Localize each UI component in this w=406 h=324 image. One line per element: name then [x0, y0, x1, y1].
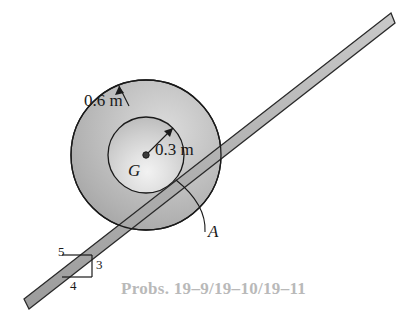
contact-point-label-a: A — [208, 223, 218, 240]
outer-radius-label: 0.6 m — [84, 92, 123, 109]
center-label-g: G — [128, 162, 140, 179]
figure-caption: Probs. 19–9/19–10/19–11 — [121, 279, 306, 299]
problem-figure: 0.6 m 0.3 m G A 5 3 4 Probs. 19–9/19–10/… — [0, 0, 406, 324]
figure-canvas — [0, 0, 406, 324]
slope-horizontal-label: 4 — [70, 279, 77, 292]
center-point-marker — [143, 152, 149, 158]
slope-vertical-label: 3 — [96, 258, 103, 271]
inner-radius-label: 0.3 m — [155, 141, 194, 158]
slope-hypotenuse-label: 5 — [58, 245, 65, 258]
